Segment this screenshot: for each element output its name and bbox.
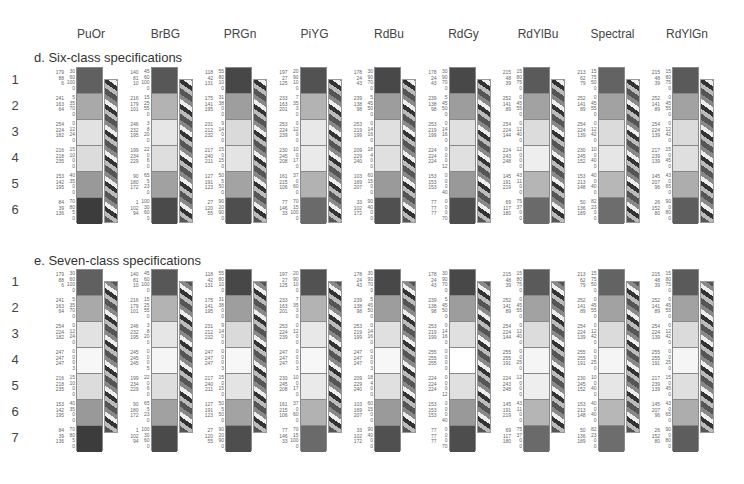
color-swatch xyxy=(599,270,624,296)
color-swatch xyxy=(301,270,326,296)
cmyk-value: 0 xyxy=(363,138,373,144)
rgb-value: 148 xyxy=(572,185,586,191)
color-swatch xyxy=(450,146,475,172)
cmyk-value: 0 xyxy=(289,288,299,294)
cmyk-values: 505500 xyxy=(214,173,224,195)
rgb-value: 232 xyxy=(199,335,213,341)
rgb-values: 153213148 xyxy=(572,402,586,419)
rgb-values: 25214189 xyxy=(572,96,586,113)
rgb-values: 110294 xyxy=(125,428,139,445)
rgb-value: 10 xyxy=(125,283,139,289)
color-swatch xyxy=(524,296,549,322)
cmyk-value: 0 xyxy=(65,340,75,346)
cmyk-value: 0 xyxy=(512,366,522,372)
swatch-column-rdylbu xyxy=(523,269,550,451)
rgb-value: 232 xyxy=(199,133,213,139)
cmyk-value: 0 xyxy=(438,138,448,144)
cmyk-values: 014160 xyxy=(438,323,448,345)
sample-map-thumbnail xyxy=(253,281,267,433)
rgb-value: 199 xyxy=(423,335,437,341)
rgb-values: 247247247 xyxy=(50,350,64,367)
cmyk-value: 0 xyxy=(65,164,75,170)
rgb-value: 189 xyxy=(572,439,586,445)
scheme-header-rdylgn: RdYlGn xyxy=(650,27,724,41)
cmyk-value: 0 xyxy=(587,112,597,118)
cmyk-value: 0 xyxy=(65,314,75,320)
color-swatch xyxy=(599,322,624,348)
cmyk-values: 45601000 xyxy=(140,69,150,91)
cmyk-value: 0 xyxy=(140,392,150,398)
rgb-values: 230245208 xyxy=(274,148,288,165)
color-swatch xyxy=(301,198,326,224)
rgb-value: 247 xyxy=(274,361,288,367)
rgb-value: 255 xyxy=(423,361,437,367)
rgb-value: 80 xyxy=(646,439,660,445)
rgb-values: 233163201 xyxy=(274,298,288,315)
rgb-value: 131 xyxy=(199,81,213,87)
color-swatch xyxy=(152,146,177,172)
rgb-value: 125 xyxy=(274,283,288,289)
cmyk-values: 045550 xyxy=(587,95,597,117)
rgb-values: 145191219 xyxy=(497,402,511,419)
cmyk-value: 0 xyxy=(363,112,373,118)
color-swatch xyxy=(301,348,326,374)
color-swatch xyxy=(673,146,698,172)
rgb-values: 1782443 xyxy=(423,70,437,87)
class-number: 4 xyxy=(8,352,22,367)
scheme-header-rdylbu: RdYlBu xyxy=(501,27,575,41)
color-swatch xyxy=(450,270,475,296)
rgb-values: 19727125 xyxy=(274,272,288,289)
cmyk-values: 2090100 xyxy=(289,69,299,91)
cmyk-values: 431100 xyxy=(512,173,522,195)
class-number: 1 xyxy=(8,274,22,289)
rgb-value: 139 xyxy=(646,387,660,393)
cmyk-value: 0 xyxy=(438,366,448,372)
cmyk-values: 151000 xyxy=(65,375,75,397)
color-swatch xyxy=(375,146,400,172)
cmyk-value: 0 xyxy=(214,392,224,398)
cmyk-values: 430650 xyxy=(661,173,671,195)
cmyk-values: 00012 xyxy=(438,147,448,169)
rgb-values: 216179101 xyxy=(125,298,139,315)
color-swatch xyxy=(599,172,624,198)
class-number: 1 xyxy=(8,72,22,87)
cmyk-value: 0 xyxy=(140,86,150,92)
cmyk-value: 0 xyxy=(65,190,75,196)
rgb-value: 131 xyxy=(199,283,213,289)
cmyk-values: 0000 xyxy=(438,349,448,371)
color-swatch xyxy=(375,322,400,348)
rgb-values: 777777 xyxy=(423,200,437,217)
cmyk-value: 3 xyxy=(289,366,299,372)
cmyk-values: 150150 xyxy=(214,375,224,397)
cmyk-values: 9020900 xyxy=(214,427,224,449)
cmyk-values: 545500 xyxy=(363,95,373,117)
rgb-value: 195 xyxy=(199,107,213,113)
rgb-values: 145191219 xyxy=(497,174,511,191)
swatch-column-rdylgn xyxy=(672,269,699,451)
color-swatch xyxy=(226,172,251,198)
color-swatch xyxy=(375,68,400,94)
cmyk-values: 70151000 xyxy=(289,199,299,221)
scheme-header-spectral: Spectral xyxy=(576,27,650,41)
rgb-values: 2154839 xyxy=(646,272,660,289)
rgb-values: 255255191 xyxy=(572,350,586,367)
cmyk-values: 045550 xyxy=(587,297,597,319)
cmyk-value: 0 xyxy=(363,392,373,398)
rgb-value: 136 xyxy=(50,211,64,217)
cmyk-values: 1575500 xyxy=(587,69,597,91)
cmyk-value: 0 xyxy=(289,340,299,346)
rgb-values: 247247247 xyxy=(274,350,288,367)
cmyk-values: 3090700 xyxy=(363,271,373,293)
rgb-value: 191 xyxy=(646,361,660,367)
rgb-value: 153 xyxy=(423,185,437,191)
color-swatch xyxy=(450,94,475,120)
cmyk-value: 0 xyxy=(289,392,299,398)
rgb-values: 161215106 xyxy=(274,174,288,191)
cmyk-values: 91400 xyxy=(214,323,224,345)
class-number: 4 xyxy=(8,150,22,165)
rgb-values: 50136189 xyxy=(572,200,586,217)
cmyk-values: 014160 xyxy=(363,323,373,345)
rgb-value: 106 xyxy=(274,185,288,191)
cmyk-values: 70151000 xyxy=(289,427,299,449)
color-swatch xyxy=(301,94,326,120)
